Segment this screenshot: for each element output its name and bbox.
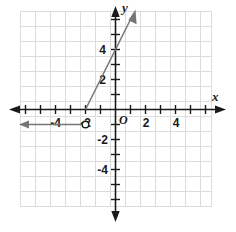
graph-canvas: -4 -2 2 4 4 2 -2 -4 O y x: [0, 0, 236, 232]
y-tick-label-neg4: -4: [97, 163, 108, 177]
y-axis-label: y: [120, 0, 128, 15]
x-tick-label-pos2: 2: [143, 116, 150, 130]
open-circle-endpoint: [82, 121, 89, 128]
coordinate-plane-graph: -4 -2 2 4 4 2 -2 -4 O y x: [0, 0, 236, 232]
y-tick-label-pos4: 4: [99, 43, 106, 57]
origin-label: O: [119, 113, 128, 127]
x-tick-label-pos4: 4: [173, 116, 180, 130]
x-axis-label: x: [211, 89, 219, 104]
y-tick-label-neg2: -2: [97, 133, 108, 147]
x-tick-label-neg4: -4: [50, 116, 61, 130]
